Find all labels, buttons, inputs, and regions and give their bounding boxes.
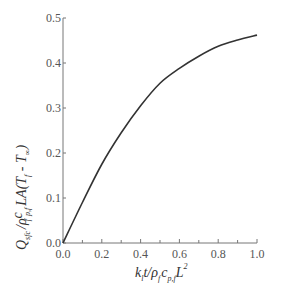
y-axis-label: Qsfc/ρcfp,fLA(Tf - T∞) [10,145,32,251]
x-tick-label: 0.8 [211,247,226,261]
data-curve [63,35,257,243]
x-tick-label: 0.6 [172,247,187,261]
x-tick-label: 0.0 [56,247,71,261]
y-tick-label: 0.2 [46,146,61,160]
y-tick-label: 0.1 [46,191,61,205]
y-tick-label: 0.3 [46,101,61,115]
y-tick-label: 0.4 [46,56,61,70]
x-axis-label: klt/ρfcp,fL2 [135,262,187,283]
axes [63,18,257,243]
x-tick-label: 0.2 [94,247,109,261]
x-ticks: 0.00.20.40.60.81.0 [56,239,265,261]
chart: 0.00.10.20.30.40.5 0.00.20.40.60.81.0 kl… [0,0,292,299]
x-tick-label: 0.4 [133,247,148,261]
x-tick-label: 1.0 [250,247,265,261]
y-tick-label: 0.5 [46,11,61,25]
